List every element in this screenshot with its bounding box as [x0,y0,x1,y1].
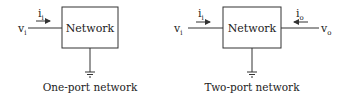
two-port-diagram: vi ii Network io vo Two-port network [173,7,331,93]
network-label: Network [66,22,115,35]
input-current-label: ii [38,7,45,22]
input-voltage-label: vi [173,22,183,37]
output-current-label: io [296,7,304,22]
one-port-diagram: vi ii Network One-port network [17,7,138,93]
ground-icon [85,72,95,77]
diagram-caption: One-port network [43,81,138,93]
diagram-caption: Two-port network [205,81,301,93]
network-diagrams: vi ii Network One-port network vi ii Net… [0,0,338,99]
ground-icon [247,72,257,77]
network-label: Network [228,22,277,35]
input-current-label: ii [198,7,205,22]
input-voltage-label: vi [17,22,27,37]
output-voltage-label: vo [320,22,331,37]
